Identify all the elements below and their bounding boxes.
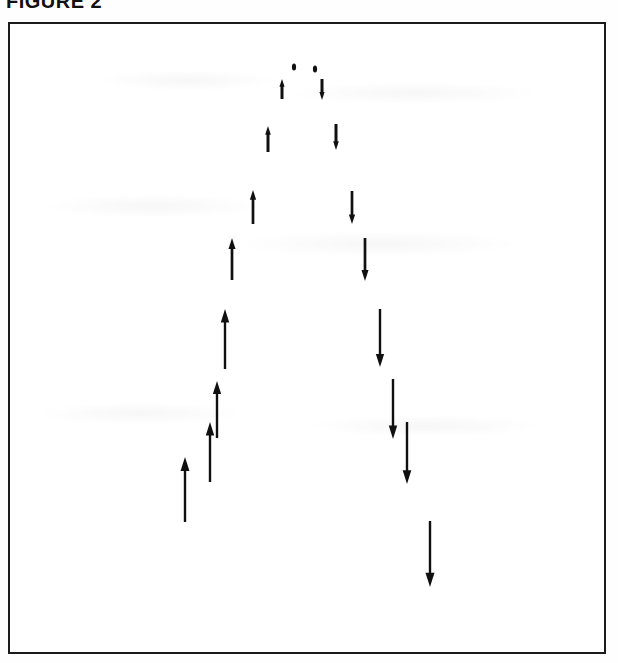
vector-arrowhead: [319, 92, 324, 100]
vector-arrowhead: [250, 190, 256, 200]
velocity-vector-up: [213, 381, 221, 438]
projectile-vector-diagram: [10, 24, 608, 656]
vector-arrowhead: [389, 426, 398, 439]
velocity-vector-up: [206, 422, 215, 482]
velocity-vector-down: [403, 422, 412, 484]
vector-arrowhead: [206, 422, 215, 435]
vector-arrowhead: [265, 126, 271, 135]
velocity-vector-up: [229, 238, 236, 280]
vector-arrowhead: [229, 238, 236, 249]
velocity-vector-up: [279, 79, 284, 99]
vector-arrowhead: [181, 457, 190, 471]
vector-arrowhead: [403, 470, 412, 484]
velocity-vector-up: [181, 457, 190, 522]
vector-arrowhead: [333, 141, 339, 150]
figure-frame: [8, 22, 606, 654]
velocity-vector-up: [250, 190, 256, 224]
apex-velocity-marker: [292, 63, 296, 70]
velocity-vector-down: [349, 191, 355, 224]
vector-arrowhead: [376, 354, 384, 367]
velocity-vector-down: [389, 379, 398, 439]
velocity-vector-down: [376, 309, 384, 367]
velocity-vector-down: [319, 79, 324, 100]
vector-arrowhead: [221, 309, 230, 322]
vector-arrowhead: [349, 214, 355, 224]
velocity-vector-layer: [181, 79, 435, 587]
vector-arrowhead: [279, 79, 284, 87]
velocity-vector-up: [221, 309, 230, 369]
velocity-vector-down: [425, 521, 434, 587]
apex-velocity-marker: [313, 65, 317, 72]
velocity-vector-down: [333, 124, 339, 150]
figure-label: FIGURE 2: [6, 0, 102, 13]
velocity-vector-up: [265, 126, 271, 152]
vector-arrowhead: [425, 573, 434, 587]
vector-arrowhead: [361, 270, 368, 281]
apex-marker-layer: [292, 63, 317, 72]
velocity-vector-down: [361, 238, 368, 281]
vector-arrowhead: [213, 381, 221, 394]
figure-page: FIGURE 2: [0, 0, 618, 663]
